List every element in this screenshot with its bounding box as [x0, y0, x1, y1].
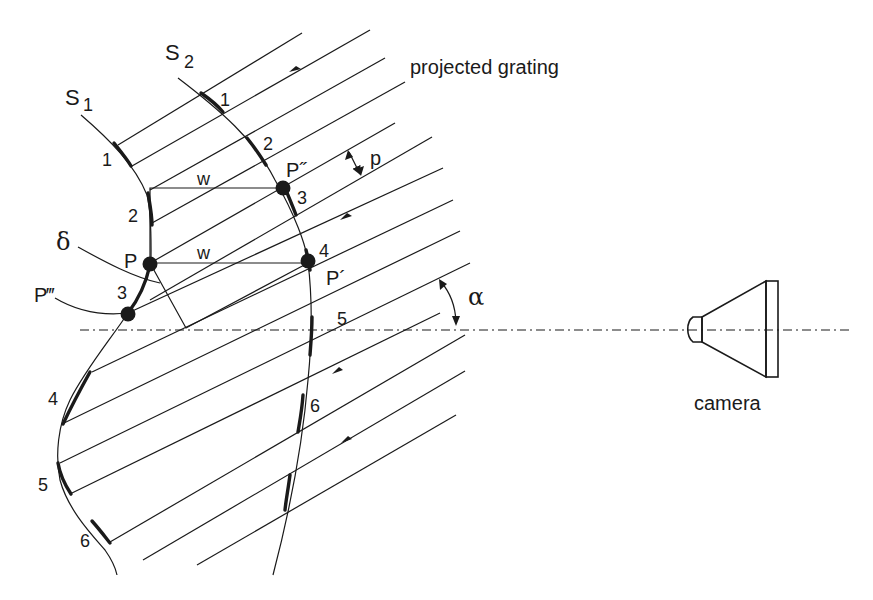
label-w-lower: w	[196, 243, 211, 263]
surface-s1	[58, 115, 152, 575]
arrow-icon	[341, 436, 352, 443]
s1-fringe-number: 5	[38, 475, 48, 495]
surface-s2-fringe-6	[298, 395, 303, 432]
s2-fringe-number: 4	[319, 241, 329, 261]
label-point-p: P	[124, 250, 137, 272]
grating-line	[197, 415, 456, 565]
label-w-upper: w	[196, 169, 211, 189]
grating-line	[152, 82, 405, 223]
s1-fringe-number: 3	[117, 283, 127, 303]
reflection-path	[150, 263, 308, 328]
label-alpha: α	[468, 283, 484, 311]
label-s1-sub: 1	[83, 95, 93, 115]
s1-fringe-number: 6	[80, 531, 90, 551]
s1-fringe-number: 4	[48, 389, 58, 409]
construction-lines	[55, 188, 308, 328]
label-s2-sub: 2	[184, 52, 194, 72]
alpha-arrow-head-bottom	[452, 316, 460, 326]
s1-fringe-number: 1	[102, 150, 112, 170]
surface-s1-fringe-4	[63, 372, 90, 424]
arrow-icon	[332, 367, 343, 374]
label-projected-grating: projected grating	[410, 56, 559, 78]
label-camera: camera	[694, 392, 762, 414]
s1-fringe-number: 2	[128, 206, 138, 226]
label-s1: S	[65, 85, 80, 110]
camera-icon	[688, 281, 778, 377]
label-delta: δ	[56, 228, 70, 256]
label-s2: S	[165, 40, 180, 65]
point-p	[143, 257, 158, 272]
s2-fringe-number: 6	[310, 396, 320, 416]
grating-line	[72, 313, 440, 493]
grating-line	[62, 231, 460, 424]
label-point-p-double-prime: P˝	[286, 159, 307, 181]
s2-fringe-number: 5	[337, 309, 347, 329]
surface-s1-fringe-3	[128, 265, 150, 313]
point-p-prime	[301, 254, 316, 269]
s2-fringe-number: 1	[220, 90, 230, 110]
point-p-triple-prime	[121, 307, 136, 322]
label-point-p-prime: P´	[326, 267, 346, 289]
surface-s2-fringe-5	[310, 317, 312, 355]
grating-line	[152, 123, 395, 262]
surface-s1-curve	[58, 115, 151, 575]
surface-s1-fringe-1	[114, 143, 131, 166]
grating-line	[118, 33, 302, 145]
point-p-double-prime	[276, 181, 291, 196]
grating-line	[110, 335, 465, 542]
surface-s1-fringe-6	[92, 521, 110, 543]
grating-line	[150, 58, 385, 190]
camera-body	[702, 281, 766, 377]
label-point-p-triple-prime: P‴	[34, 284, 55, 306]
s2-fringe-number: 3	[297, 188, 307, 208]
label-pitch: p	[370, 147, 381, 169]
s2-fringe-number: 2	[263, 134, 273, 154]
camera-back	[766, 281, 778, 377]
grating-line	[92, 200, 453, 372]
fringe-projection-diagram: S 1 S 2 projected grating camera p α δ w…	[0, 0, 873, 600]
